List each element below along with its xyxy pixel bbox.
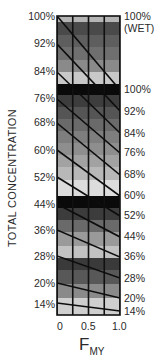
right-tick-label: 20%	[124, 293, 145, 304]
right-tick-label: 44%	[124, 231, 145, 242]
right-tick-label: 14%	[124, 306, 145, 317]
right-tick-label: 60%	[124, 190, 145, 201]
left-tick-label: 28%	[34, 251, 55, 262]
chart-container: TOTAL CONCENTRATION 100%92%84%76%68%60%5…	[0, 0, 163, 362]
right-tick-label: 100%	[124, 11, 151, 22]
left-tick-label: 92%	[34, 38, 55, 49]
right-tick-label: 84%	[124, 128, 145, 139]
left-tick-label: 36%	[34, 225, 55, 236]
x-axis-title: FMY	[79, 335, 104, 357]
left-tick-label: 76%	[34, 93, 55, 104]
left-tick-label: 68%	[34, 117, 55, 128]
y-axis-title: TOTAL CONCENTRATION	[6, 109, 18, 247]
x-tick-label: 0.5	[81, 320, 96, 332]
right-tick-label: 36%	[124, 251, 145, 262]
right-tick-label: 28%	[124, 273, 145, 284]
x-axis-title-main: F	[79, 335, 89, 354]
x-tick-label: 1.0	[112, 320, 127, 332]
left-tick-label: 84%	[34, 66, 55, 77]
x-tick-label: 0	[57, 320, 63, 332]
x-axis-title-subscript: MY	[89, 346, 104, 357]
right-tick-label: 68%	[124, 169, 145, 180]
right-tick-label: 92%	[124, 106, 145, 117]
right-tick-label: 52%	[124, 210, 145, 221]
left-tick-label: 100%	[28, 11, 55, 22]
right-tick-label: 100%	[124, 84, 151, 95]
left-tick-label: 52%	[34, 172, 55, 183]
left-tick-label: 14%	[34, 299, 55, 310]
left-tick-label: 20%	[34, 278, 55, 289]
left-tick-label: 44%	[34, 199, 55, 210]
right-tick-label: (WET)	[124, 23, 154, 34]
left-tick-label: 60%	[34, 145, 55, 156]
right-tick-label: 76%	[124, 147, 145, 158]
